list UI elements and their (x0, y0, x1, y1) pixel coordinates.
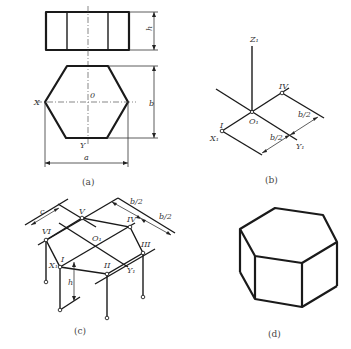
figure-a: h b X 0 Y a (a) (33, 6, 158, 187)
caption-c: (c) (74, 326, 86, 336)
label-iv: IV (126, 215, 137, 224)
caption-d: (d) (268, 329, 281, 339)
prism-top-face (240, 208, 337, 263)
y1-axis (59, 223, 128, 267)
point-iv (280, 91, 284, 95)
label-a: a (84, 153, 89, 162)
label-h: h (68, 278, 73, 287)
y1-axis-line (216, 89, 297, 140)
label-v: V (79, 207, 86, 216)
figure-b: Z₁ O₁ X₁ Y₁ I IV b/2 b/2 (b) (209, 35, 324, 185)
label-y1: Y₁ (296, 142, 305, 151)
label-o1: O₁ (92, 234, 102, 243)
hexagonal-prism-isometric-diagram: h b X 0 Y a (a) Z₁ O₁ (0, 0, 351, 349)
label-y1: Y₁ (127, 266, 136, 275)
label-dim-2: b/2 (298, 110, 311, 119)
label-b: b (149, 99, 154, 108)
label-dim-b2: b/2 (159, 212, 172, 221)
origin-point (250, 110, 253, 113)
label-x1: X₁ (48, 261, 58, 270)
construction-line (58, 204, 96, 227)
x1-axis (60, 223, 135, 267)
front-view-rect (46, 12, 129, 50)
label-y: Y (80, 141, 86, 150)
label-iv: IV (278, 82, 289, 91)
label-origin: 0 (90, 91, 95, 100)
label-o1: O₁ (249, 117, 259, 126)
label-x1: X₁ (209, 134, 219, 143)
label-z1: Z₁ (249, 35, 259, 44)
label-i: I (60, 255, 65, 264)
extension-i (222, 131, 262, 155)
figure-d: (d) (240, 208, 337, 339)
construction-line (25, 199, 68, 225)
caption-b: (b) (265, 175, 278, 185)
label-dim-1: b/2 (270, 133, 283, 142)
figure-c: c b/2 b/2 h VI V IV III II I X₁ Y₁ O₁ (25, 197, 175, 336)
label-h: h (145, 26, 154, 31)
label-x: X (33, 98, 40, 107)
caption-a: (a) (82, 177, 94, 187)
label-dim-b1: b/2 (130, 197, 143, 206)
label-i: I (219, 121, 224, 130)
label-ii: II (103, 261, 111, 270)
label-vi: VI (42, 227, 52, 236)
label-c: c (40, 207, 45, 216)
label-iii: III (140, 240, 151, 249)
